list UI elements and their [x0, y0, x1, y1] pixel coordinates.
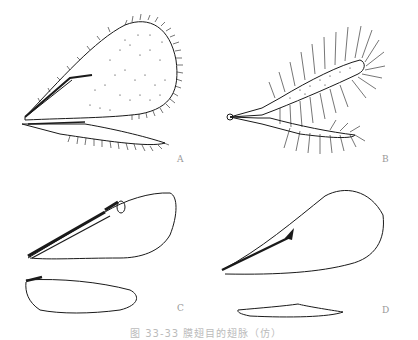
- panel-label-a: A: [177, 154, 184, 164]
- figure-caption: 图 33-33 膜翅目的翅脉（仿）: [130, 325, 282, 340]
- panel-label-c: C: [177, 303, 184, 313]
- panel-label-b: B: [382, 154, 389, 164]
- panel-label-d: D: [382, 305, 389, 315]
